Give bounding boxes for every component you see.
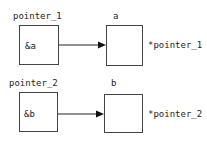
arrows-layer bbox=[0, 0, 207, 144]
arrow-icon bbox=[58, 111, 104, 118]
arrow-icon bbox=[59, 42, 106, 49]
